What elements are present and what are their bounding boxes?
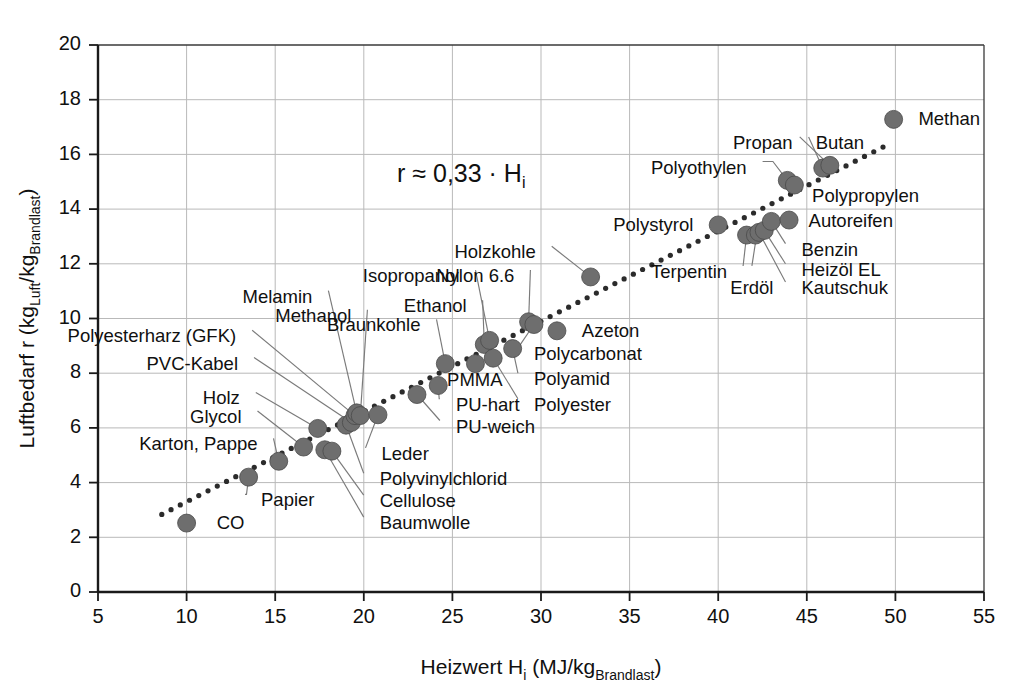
x-tick-label: 25	[441, 605, 463, 627]
trendline-dot	[760, 206, 765, 211]
x-tick-label: 5	[92, 605, 103, 627]
point-label-polypropylen: Polypropylen	[812, 185, 919, 206]
point-label-polystyrol: Polystyrol	[613, 214, 693, 235]
trendline-dot	[224, 479, 229, 484]
point-label-azeton: Azeton	[582, 320, 640, 341]
x-tick-label: 55	[973, 605, 995, 627]
y-tick-label: 6	[70, 415, 81, 437]
point-label-pmma: PMMA	[447, 369, 503, 390]
trendline-dot	[695, 239, 700, 244]
point-label-braunkohle: Braunkohle	[327, 314, 421, 335]
trendline-dot	[612, 281, 617, 286]
data-point-butan	[821, 156, 839, 174]
point-label-co: CO	[217, 512, 245, 533]
trendline-dot	[806, 182, 811, 187]
point-label-papier: Papier	[261, 489, 314, 510]
trendline-dot	[289, 446, 294, 451]
equation-annotation-text: r ≈ 0,33 · Hi	[397, 159, 525, 191]
x-tick-label: 40	[707, 605, 729, 627]
data-point-polycarbonat	[525, 316, 543, 334]
trendline-dot	[566, 305, 571, 310]
trendline-dot	[178, 502, 183, 507]
equation-annotation: r ≈ 0,33 · Hi	[397, 159, 525, 191]
y-tick-label: 14	[59, 196, 81, 218]
trendline-dot	[501, 338, 506, 343]
point-label-polyothylen: Polyothylen	[651, 157, 747, 178]
trendline-dot	[742, 215, 747, 220]
scatter-chart: 02468101214161820510152025303540455055 C…	[0, 0, 1013, 695]
trendline-dot	[585, 295, 590, 300]
trendline-dot	[400, 389, 405, 394]
point-label-butan: Butan	[816, 132, 864, 153]
y-tick-label: 20	[59, 32, 81, 54]
trendline-dot	[686, 243, 691, 248]
point-label-heiz-l-el: Heizöl EL	[802, 259, 881, 280]
trendline-dot	[390, 394, 395, 399]
trendline-dot	[816, 177, 821, 182]
y-tick-label: 16	[59, 142, 81, 164]
trendline-dot	[159, 512, 164, 517]
point-label-autoreifen: Autoreifen	[809, 210, 893, 231]
data-point-polystyrol	[709, 216, 727, 234]
trendline-dot	[880, 144, 885, 149]
point-label-polycarbonat: Polycarbonat	[534, 343, 642, 364]
trendline-dot	[557, 309, 562, 314]
data-point-polypropylen	[785, 176, 803, 194]
x-tick-label: 10	[175, 605, 197, 627]
data-point-autoreifen	[780, 211, 798, 229]
x-tick-label: 15	[264, 605, 286, 627]
y-tick-label: 12	[59, 251, 81, 273]
point-label-pu-weich: PU-weich	[456, 416, 535, 437]
trendline-dot	[603, 286, 608, 291]
trendline-dot	[548, 314, 553, 319]
data-point-pu-hart	[429, 377, 447, 395]
data-point-cellulose	[323, 442, 341, 460]
trendline-dot	[751, 210, 756, 215]
y-tick-label: 4	[70, 470, 81, 492]
data-point-co	[178, 514, 196, 532]
data-point-holz	[309, 419, 327, 437]
trendline-dot	[705, 234, 710, 239]
point-label-glycol: Glycol	[190, 406, 241, 427]
trendline-dot	[769, 201, 774, 206]
trendline-dot	[871, 149, 876, 154]
y-tick-label: 0	[70, 579, 81, 601]
point-label-methan: Methan	[918, 108, 980, 129]
point-label-melamin: Melamin	[242, 286, 312, 307]
trendline-dot	[622, 276, 627, 281]
point-label-polyvinylchlorid: Polyvinylchlorid	[380, 468, 508, 489]
point-label-karton-pappe: Karton, Pappe	[139, 433, 257, 454]
point-label-kautschuk: Kautschuk	[802, 277, 889, 298]
y-tick-label: 18	[59, 87, 81, 109]
trendline-dot	[732, 220, 737, 225]
data-point-papier	[240, 468, 258, 486]
data-point-leder	[369, 406, 387, 424]
point-label-polyesterharz-gfk: Polyesterharz (GFK)	[68, 325, 237, 346]
x-tick-label: 20	[353, 605, 375, 627]
x-tick-label: 35	[618, 605, 640, 627]
data-point-pu-weich	[408, 386, 426, 404]
trendline-dot	[511, 333, 516, 338]
x-tick-label: 50	[884, 605, 906, 627]
data-point-glycol	[295, 438, 313, 456]
trendline-dot	[215, 484, 220, 489]
trendline-dot	[418, 380, 423, 385]
trendline-dot	[187, 498, 192, 503]
trendline-dot	[168, 507, 173, 512]
trendline-dot	[631, 272, 636, 277]
data-point-azeton	[548, 322, 566, 340]
trendline-dot	[853, 159, 858, 164]
trendline-dot	[677, 248, 682, 253]
data-point-polyamid	[504, 340, 522, 358]
data-point-polyester	[484, 349, 502, 367]
trendline-dot	[594, 290, 599, 295]
point-label-nylon-6-6: Nylon 6.6	[436, 265, 514, 286]
trendline-dot	[575, 300, 580, 305]
point-label-terpentin: Terpentin	[651, 261, 727, 282]
trendline-dot	[779, 196, 784, 201]
y-tick-label: 8	[70, 360, 81, 382]
data-point-holzkohle	[582, 268, 600, 286]
point-label-pu-hart: PU-hart	[456, 394, 520, 415]
chart-figure: 02468101214161820510152025303540455055 C…	[0, 0, 1013, 695]
point-label-polyamid: Polyamid	[534, 368, 610, 389]
